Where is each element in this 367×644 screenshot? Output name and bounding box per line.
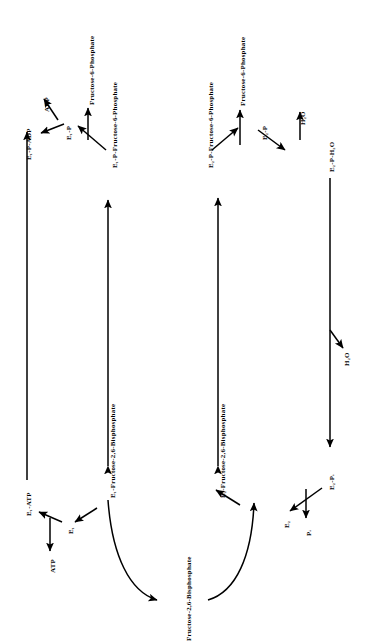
arrow-e1p-to-e1padp [41, 124, 64, 133]
node-label-e1-p-adp: E₁-P-ADP [26, 128, 33, 160]
node-label-pi: Pᵢ [306, 530, 313, 536]
node-label-e2-p-fructose-6-phosphate: E₂-P-Fructose-6-Phosphate [208, 82, 215, 168]
node-label-adp: ADP [44, 97, 51, 112]
node-label-e2-pi: E₂-Pᵢ [329, 474, 336, 490]
arrow-e2pf6p-to-e2p [212, 128, 238, 150]
arrow-f26bp-to-e2fbp-curve [208, 503, 254, 600]
node-label-e1-fructose-2-6-bisphosphate: E₁-Fructose-2,6-Bisphosphate [110, 404, 117, 498]
node-label-h2o-top: H₂O [300, 111, 307, 125]
scheme-arrows-layer [0, 0, 367, 644]
arrow-release-h2o-mid [330, 330, 343, 348]
node-label-e1-p: E₁-P [66, 126, 73, 140]
node-label-h2o-mid: H₂O [344, 352, 351, 366]
arrow-e1pf6p-to-e1p [78, 126, 106, 150]
node-label-atp: ATP [50, 559, 57, 573]
node-label-e1-p-fructose-6-phosphate: E₁-P-Fructose-6-Phosphate [112, 82, 119, 168]
reaction-scheme-diagram: E₁-P-ADP ADP E₁-P Fructose-6-Phosphate E… [0, 0, 367, 644]
node-label-fructose-6-phosphate-left: Fructose-6-Phosphate [89, 36, 96, 105]
arrow-e1fbp-to-f26bp-curve [108, 500, 157, 600]
node-label-e2-p: E₂-P [262, 126, 269, 140]
node-label-fructose-2-6-bisphosphate: Fructose-2,6-Bisphosphate [186, 556, 193, 641]
node-label-e1-atp: E₁-ATP [26, 492, 33, 516]
arrow-e1fbp-to-e1 [75, 508, 97, 522]
node-label-e2: E₂ [284, 521, 291, 528]
node-label-e2-fructose-2-6-bisphosphate: E₂-Fructose-2,6-Bisphosphate [220, 404, 227, 498]
node-label-e2-p-h2o: E₂-P-H₂O [329, 142, 336, 172]
node-label-fructose-6-phosphate-right: Fructose-6-Phosphate [240, 37, 247, 106]
node-label-e1: E₁ [68, 527, 75, 534]
